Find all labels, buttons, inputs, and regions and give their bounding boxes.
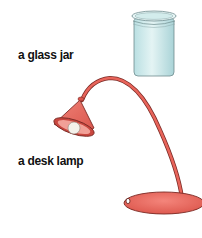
- illustration: [0, 0, 202, 238]
- glass-jar-icon: [132, 11, 176, 76]
- desk-lamp-icon: [52, 78, 202, 214]
